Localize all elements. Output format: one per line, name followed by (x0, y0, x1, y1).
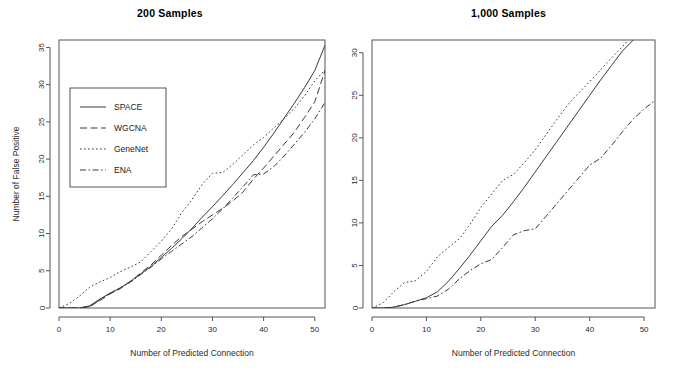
y-tick-label: 15 (38, 191, 47, 200)
y-tick-label: 5 (38, 268, 47, 273)
x-tick-label: 30 (208, 325, 217, 334)
legend-label-ena: ENA (114, 165, 132, 175)
plot-area-right: 01020304050051015202530Number of Predict… (340, 0, 677, 368)
y-tick-label: 35 (38, 42, 47, 51)
panel-200-samples: 200 Samples 0102030405005101520253035Num… (0, 0, 340, 368)
series-line-genenet (59, 70, 325, 308)
y-tick-label: 20 (38, 154, 47, 163)
series-line-ena (59, 103, 325, 308)
x-tick-label: 50 (310, 325, 319, 334)
x-tick-label: 50 (640, 325, 649, 334)
y-tick-label: 15 (351, 175, 360, 184)
y-tick-label: 5 (351, 263, 360, 268)
x-tick-label: 20 (157, 325, 166, 334)
y-tick-label: 30 (38, 80, 47, 89)
y-tick-label: 25 (351, 90, 360, 99)
y-tick-label: 0 (351, 305, 360, 310)
x-tick-label: 30 (531, 325, 540, 334)
x-tick-label: 40 (259, 325, 268, 334)
plot-area-left: 0102030405005101520253035Number of Predi… (0, 0, 340, 368)
y-tick-label: 20 (351, 133, 360, 142)
panel-1000-samples: 1,000 Samples 01020304050051015202530Num… (340, 0, 677, 368)
legend-label-space: SPACE (114, 102, 143, 112)
series-line-wgcna (59, 71, 325, 308)
y-tick-label: 10 (351, 218, 360, 227)
legend-label-genenet: GeneNet (114, 144, 149, 154)
legend-label-wgcna: WGCNA (114, 123, 147, 133)
x-axis-label: Number of Predicted Connection (452, 348, 576, 358)
y-tick-label: 30 (351, 48, 360, 57)
x-tick-label: 40 (585, 325, 594, 334)
y-tick-label: 25 (38, 117, 47, 126)
y-tick-label: 0 (38, 305, 47, 310)
x-tick-label: 0 (57, 325, 62, 334)
x-tick-label: 10 (422, 325, 431, 334)
x-axis-label: Number of Predicted Connection (130, 348, 254, 358)
y-tick-label: 10 (38, 229, 47, 238)
series-line-genenet (372, 41, 628, 308)
figure-root: 200 Samples 0102030405005101520253035Num… (0, 0, 677, 368)
series-line-space (372, 40, 633, 308)
x-tick-label: 20 (476, 325, 485, 334)
series-line-space (59, 45, 325, 308)
y-axis-label: Number of False Positive (11, 126, 21, 221)
series-line-ena (372, 100, 655, 308)
x-tick-label: 0 (370, 325, 375, 334)
x-tick-label: 10 (106, 325, 115, 334)
